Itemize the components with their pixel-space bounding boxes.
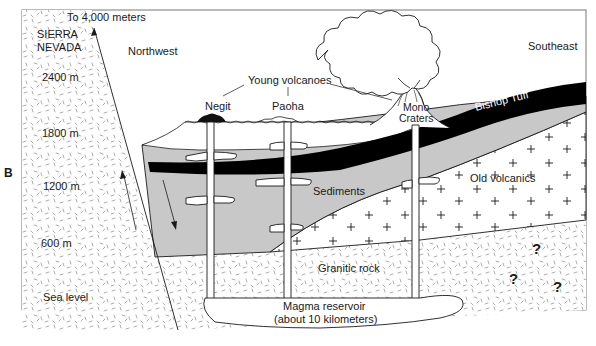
panel-label: B <box>4 166 13 180</box>
geologic-cross-section: To 4,000 meters SIERRA NEVADA Northwest … <box>0 0 596 346</box>
elevation-label-600: 600 m <box>41 237 72 249</box>
peak-note-label: To 4,000 meters <box>67 11 146 23</box>
northwest-label: Northwest <box>128 45 178 57</box>
old-volcanics-label: Old volcanics <box>470 172 536 184</box>
sediments-label: Sediments <box>313 185 365 197</box>
granitic-rock-label: Granitic rock <box>318 262 380 274</box>
unknown-marker-2: ? <box>509 270 518 287</box>
magma-size-label: (about 10 kilometers) <box>274 313 377 325</box>
unknown-marker-1: ? <box>532 240 541 257</box>
elevation-label-1200: 1200 m <box>43 180 80 192</box>
craters-label: Craters <box>399 112 433 124</box>
elevation-label-1800: 1800 m <box>42 127 79 139</box>
elevation-label-sea-level: Sea level <box>43 291 88 303</box>
negit-label: Negit <box>205 100 231 112</box>
unknown-marker-3: ? <box>553 278 562 295</box>
southeast-label: Southeast <box>528 40 578 52</box>
magma-reservoir-label: Magma reservoir <box>283 300 366 312</box>
paoha-label: Paoha <box>272 100 305 112</box>
sierra-label-line1: SIERRA <box>37 28 79 40</box>
sierra-label-line2: NEVADA <box>37 41 82 53</box>
elevation-label-2400: 2400 m <box>42 71 79 83</box>
young-volcanoes-label: Young volcanoes <box>248 74 332 86</box>
